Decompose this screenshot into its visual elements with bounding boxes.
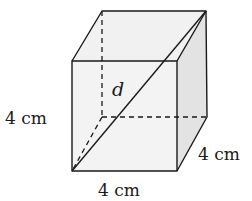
front-face bbox=[72, 61, 177, 171]
height-label: 4 cm bbox=[5, 108, 47, 128]
cube-diagram: d 4 cm 4 cm 4 cm bbox=[0, 0, 252, 201]
depth-label: 4 cm bbox=[198, 144, 240, 164]
diagonal-label: d bbox=[112, 78, 124, 100]
width-label: 4 cm bbox=[98, 180, 140, 200]
